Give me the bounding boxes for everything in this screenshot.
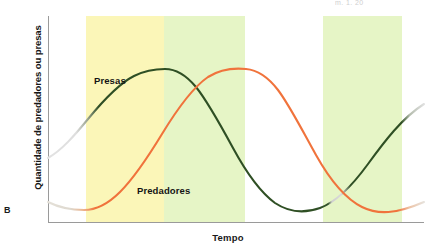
predator-label: Predadores — [137, 185, 190, 196]
plot-area: Presas Predadores — [0, 0, 434, 250]
band-recovery — [323, 16, 402, 222]
predator-prey-figure: m. 1. 20 B Quantidade de predadores ou p… — [0, 0, 434, 250]
prey-label: Presas — [94, 75, 126, 86]
